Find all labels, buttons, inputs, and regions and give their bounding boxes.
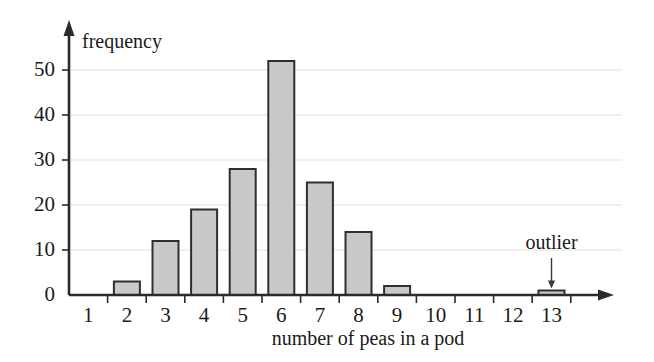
x-tick-label: 8 bbox=[353, 303, 364, 327]
bar bbox=[230, 169, 256, 295]
bar bbox=[268, 61, 294, 295]
x-tick-label: 7 bbox=[315, 303, 326, 327]
bar bbox=[384, 286, 410, 295]
x-tick-label: 1 bbox=[83, 303, 94, 327]
x-tick-label: 10 bbox=[425, 303, 446, 327]
bar bbox=[114, 282, 140, 296]
y-tick-label: 50 bbox=[34, 57, 55, 81]
bar bbox=[153, 241, 179, 295]
histogram-svg: 01020304050 12345678910111213 frequency … bbox=[0, 0, 654, 362]
x-tick-label: 13 bbox=[541, 303, 562, 327]
y-tick-label: 10 bbox=[34, 237, 55, 261]
x-tick-label: 5 bbox=[237, 303, 248, 327]
bar bbox=[191, 210, 217, 296]
x-tick-label: 11 bbox=[464, 303, 484, 327]
x-axis-title: number of peas in a pod bbox=[272, 327, 465, 350]
bar bbox=[346, 232, 372, 295]
x-tick-label: 4 bbox=[199, 303, 210, 327]
y-tick-label: 30 bbox=[34, 147, 55, 171]
y-tick-label: 40 bbox=[34, 102, 55, 126]
x-tick-label: 12 bbox=[502, 303, 523, 327]
y-axis-title: frequency bbox=[82, 30, 162, 53]
bar bbox=[307, 183, 333, 296]
x-tick-label: 3 bbox=[160, 303, 171, 327]
y-tick-label: 0 bbox=[45, 282, 56, 306]
histogram-chart: 01020304050 12345678910111213 frequency … bbox=[0, 0, 654, 362]
x-tick-label: 9 bbox=[392, 303, 403, 327]
y-tick-label: 20 bbox=[34, 192, 55, 216]
outlier-annotation-label: outlier bbox=[525, 231, 578, 253]
x-tick-label: 2 bbox=[122, 303, 133, 327]
x-tick-label: 6 bbox=[276, 303, 287, 327]
